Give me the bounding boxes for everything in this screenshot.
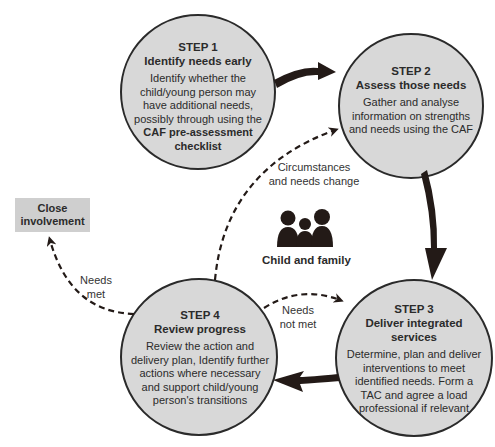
family-icon [277,209,333,247]
step-1-text: STEP 1 Identify needs early Identify whe… [132,40,264,153]
step-4-text: STEP 4 Review progress Review the action… [130,308,270,408]
step-3-text: STEP 3 Deliver integrated services Deter… [346,302,482,416]
step-3-title: Deliver integrated services [364,316,464,344]
step-2-number: STEP 2 [347,64,475,78]
step-3-description: Determine, plan and deliver intervention… [346,348,482,416]
arrow-step1-to-step2 [274,62,336,88]
close-involvement-box: Close involvement [15,198,90,232]
step-2-text: STEP 2 Assess those needs Gather and ana… [347,64,475,137]
step-1-description: Identify whether the child/young person … [132,72,264,153]
needs-not-met-label: Needs not met [273,304,323,331]
needs-met-label: Needs met [76,274,116,301]
step-4-title: Review progress [130,322,270,336]
step-4-description: Review the action and delivery plan, Ide… [130,340,270,408]
child-and-family-label: Child and family [262,254,351,266]
step-1-description-text: Identify whether the child/young person … [134,72,262,125]
arrow-step3-to-step4 [273,371,340,392]
step-1-title: Identify needs early [132,54,264,68]
step-2-description: Gather and analyse information on streng… [347,96,475,137]
step-2-title: Assess those needs [347,78,475,92]
step-1-number: STEP 1 [132,40,264,54]
step-1-description-bold: CAF pre-assessment checklist [143,126,252,152]
close-involvement-label: Close involvement [15,202,90,228]
step-3-number: STEP 3 [346,302,482,316]
arrow-step2-to-step3 [421,170,447,280]
step-4-number: STEP 4 [130,308,270,322]
circumstances-label: Circumstances and needs change [268,161,360,188]
